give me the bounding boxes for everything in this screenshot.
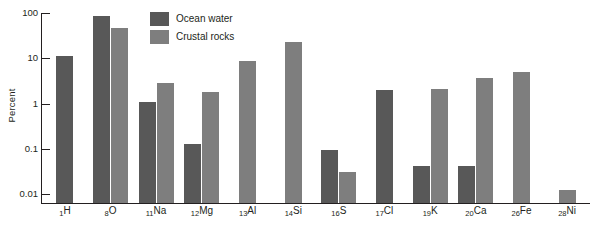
x-label-ni: 28Ni <box>558 206 576 216</box>
y-tick-label: 0.01 <box>20 189 39 199</box>
legend-item: Ocean water <box>150 11 234 27</box>
legend-label: Ocean water <box>176 14 233 24</box>
y-tick-label: 0.1 <box>25 144 38 154</box>
x-axis-line <box>41 203 590 204</box>
bar-k-crust <box>431 89 448 203</box>
element-abundance-bar-chart: 1001010.10.01 Percent 1H8O11Na12Mg13Al14… <box>0 0 594 232</box>
bar-fe-crust <box>513 72 530 203</box>
legend-item: Crustal rocks <box>150 29 234 45</box>
bar-mg-ocean <box>184 144 201 203</box>
x-label-al: 13Al <box>239 206 256 216</box>
bar-o-ocean <box>93 16 110 203</box>
bar-k-ocean <box>413 166 430 203</box>
x-label-k: 19K <box>423 206 438 216</box>
bar-al-crust <box>239 61 256 203</box>
x-label-o: 8O <box>105 206 117 216</box>
bar-h-ocean <box>56 56 73 203</box>
plot-area <box>42 13 590 203</box>
x-label-ca: 20Ca <box>465 206 486 216</box>
x-label-cl: 17Cl <box>376 206 394 216</box>
bar-o-crust <box>111 28 128 203</box>
y-tick-label: 1 <box>33 99 38 109</box>
x-label-na: 11Na <box>146 206 167 216</box>
bar-na-ocean <box>139 102 156 203</box>
legend-swatch <box>150 30 169 44</box>
bar-ca-ocean <box>458 166 475 203</box>
bar-mg-crust <box>202 92 219 203</box>
bar-s-crust <box>339 172 356 203</box>
bar-ca-crust <box>476 78 493 203</box>
legend-swatch <box>150 12 169 26</box>
bar-na-crust <box>157 83 174 203</box>
x-label-mg: 12Mg <box>191 206 213 216</box>
bar-ni-crust <box>559 190 576 203</box>
x-label-h: 1H <box>59 206 70 216</box>
bar-cl-ocean <box>376 90 393 203</box>
y-tick-label: 10 <box>27 53 38 63</box>
legend-label: Crustal rocks <box>176 32 234 42</box>
bar-si-crust <box>285 42 302 203</box>
bar-s-ocean <box>321 150 338 203</box>
y-axis-title: Percent <box>6 76 17 136</box>
x-label-fe: 26Fe <box>512 206 532 216</box>
x-label-si: 14Si <box>285 206 302 216</box>
y-tick-label: 100 <box>22 8 38 18</box>
chart-legend: Ocean waterCrustal rocks <box>150 11 234 47</box>
x-label-s: 16S <box>331 206 346 216</box>
